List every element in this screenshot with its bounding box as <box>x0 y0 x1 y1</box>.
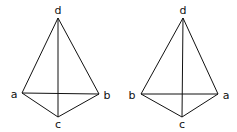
tetrahedron-left <box>22 18 99 117</box>
vertex-label-a: a <box>11 88 18 101</box>
vertex-label-c: c <box>55 118 61 131</box>
edge-db <box>141 18 183 94</box>
edge-ac <box>22 93 58 117</box>
edge-da <box>22 18 58 93</box>
vertex-label-d: d <box>55 4 62 17</box>
tetrahedron-right <box>141 18 218 117</box>
edge-db <box>58 18 99 94</box>
edge-ab <box>22 93 99 94</box>
edge-da <box>183 18 218 94</box>
vertex-label-b: b <box>129 89 136 102</box>
labels-right: d b a c <box>129 4 230 131</box>
edge-dc <box>182 18 183 117</box>
tetrahedra-diagram: d a b c d b a c <box>0 0 237 132</box>
edge-bc <box>58 94 99 117</box>
vertex-label-a: a <box>223 89 230 102</box>
vertex-label-d: d <box>180 4 187 17</box>
edge-ac <box>182 94 218 117</box>
vertex-label-b: b <box>104 89 111 102</box>
vertex-label-c: c <box>179 118 185 131</box>
edge-bc <box>141 94 182 117</box>
